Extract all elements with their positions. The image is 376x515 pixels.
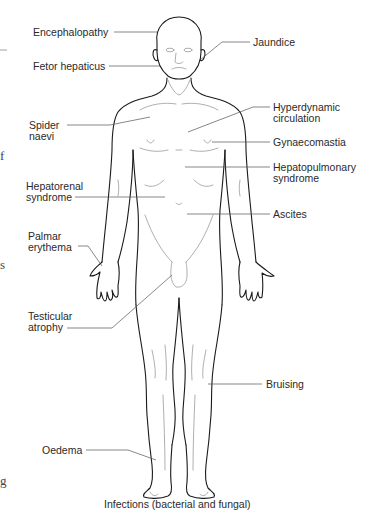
label-hepatorenal-syndrome: Hepatorenal syndrome: [26, 181, 83, 203]
label-spider-naevi-line2: naevi: [29, 131, 59, 142]
label-infections: Infections (bacterial and fungal): [104, 499, 251, 510]
label-fetor-hepaticus: Fetor hepaticus: [33, 61, 105, 72]
label-hepatorenal-line2: syndrome: [26, 192, 83, 203]
leader-lines: [67, 32, 270, 460]
label-hepatopulmonary-syndrome: Hepatopulmonary syndrome: [273, 162, 356, 184]
leader-palmar-erythema: [78, 246, 102, 266]
label-bruising: Bruising: [266, 379, 304, 390]
body-outline: [90, 17, 274, 498]
leader-jaundice: [200, 42, 250, 60]
right-eye: [184, 48, 192, 52]
label-hepatopulmonary-line2: syndrome: [273, 173, 356, 184]
leader-hyperdynamic: [188, 107, 270, 132]
head-outline: [157, 17, 202, 79]
label-gynaecomastia: Gynaecomastia: [273, 137, 346, 148]
label-hyperdynamic-circulation: Hyperdynamic circulation: [273, 102, 340, 124]
left-eye: [166, 48, 174, 52]
leader-spider-naevi: [67, 117, 150, 125]
margin-fragment-f: f: [0, 148, 4, 164]
label-palmar-erythema: Palmar erythema: [28, 231, 72, 253]
label-spider-naevi: Spider naevi: [29, 120, 59, 142]
body-illustration: [0, 0, 376, 515]
label-oedema: Oedema: [42, 445, 82, 456]
label-ascites: Ascites: [273, 209, 307, 220]
leader-oedema: [86, 450, 156, 460]
label-encephalopathy: Encephalopathy: [33, 27, 108, 38]
label-palmar-line2: erythema: [28, 242, 72, 253]
label-testicular-line2: atrophy: [28, 322, 72, 333]
margin-fragment-g: g: [0, 473, 7, 489]
liver-disease-signs-diagram: Encephalopathy Jaundice Fetor hepaticus …: [0, 0, 376, 515]
margin-fragment-s: s: [0, 257, 5, 273]
label-hyperdynamic-line2: circulation: [273, 113, 340, 124]
label-jaundice: Jaundice: [253, 37, 295, 48]
label-testicular-atrophy: Testicular atrophy: [28, 311, 72, 333]
leader-testicular-atrophy: [67, 275, 172, 328]
